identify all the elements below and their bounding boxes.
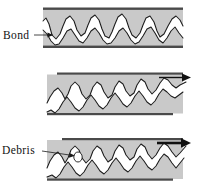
panel-3-bottom-edge (47, 179, 173, 181)
panel-1-top-edge (43, 8, 183, 10)
bond-label: Bond (3, 29, 30, 41)
panel-1-bottom-edge (43, 46, 183, 48)
panel-2-top-edge (57, 73, 183, 75)
panel-2-bottom-edge (47, 113, 173, 115)
figure-root: Bond (0, 0, 197, 193)
panel-2-shear-arrow-icon (182, 74, 191, 82)
panel-3: Debris (2, 138, 191, 181)
debris-particle-icon (74, 152, 82, 162)
panel-1: Bond (3, 8, 183, 49)
debris-label: Debris (2, 144, 35, 156)
panel-2 (47, 73, 191, 116)
panel-3-top-edge (62, 138, 183, 140)
interface-shear-diagram: Bond (0, 0, 197, 193)
